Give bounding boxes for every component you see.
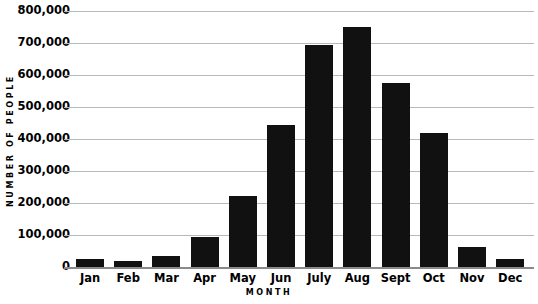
bar bbox=[267, 125, 295, 267]
bar bbox=[114, 261, 142, 267]
bar bbox=[343, 27, 371, 267]
y-axis-tick-label: 0 bbox=[4, 261, 70, 273]
bar bbox=[458, 247, 486, 267]
bar bbox=[152, 256, 180, 267]
bars-layer bbox=[72, 0, 534, 304]
bar bbox=[305, 45, 333, 267]
bar bbox=[76, 259, 104, 267]
bar bbox=[382, 83, 410, 267]
y-axis-tick-label: 200,000 bbox=[4, 197, 70, 209]
y-axis-tick-label: 500,000 bbox=[4, 101, 70, 113]
y-axis-tick-label: 300,000 bbox=[4, 165, 70, 177]
y-axis-tick-label: 100,000 bbox=[4, 229, 70, 241]
x-axis-tick-label: Dec bbox=[488, 271, 532, 285]
bar-chart-figure: NUMBER OF PEOPLE 0100,000200,000300,0004… bbox=[0, 0, 538, 304]
y-axis-tick-label: 400,000 bbox=[4, 133, 70, 145]
y-axis-tick-label: 600,000 bbox=[4, 69, 70, 81]
x-axis-title: MONTH bbox=[0, 288, 538, 297]
y-axis-tick-labels: 0100,000200,000300,000400,000500,000600,… bbox=[0, 0, 70, 304]
bar bbox=[191, 237, 219, 267]
y-axis-tick-label: 800,000 bbox=[4, 5, 70, 17]
x-axis-tick-labels: JanFebMarAprMayJunJulyAugSeptOctNovDec bbox=[72, 271, 534, 287]
bar bbox=[229, 196, 257, 267]
y-axis-tick-label: 700,000 bbox=[4, 37, 70, 49]
bar bbox=[420, 133, 448, 267]
bar bbox=[496, 259, 524, 267]
